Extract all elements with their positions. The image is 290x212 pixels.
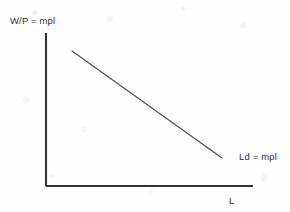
chart-plot-area <box>0 0 290 212</box>
y-axis-label: W/P = mpl <box>10 16 55 26</box>
curve-label-ld: Ld = mpl <box>239 152 277 162</box>
labor-demand-chart: W/P = mpl Ld = mpl L <box>0 0 290 212</box>
x-axis-label: L <box>229 196 234 206</box>
labor-demand-curve <box>72 51 222 158</box>
